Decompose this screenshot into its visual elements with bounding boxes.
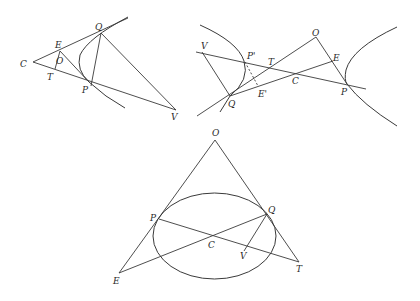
diameter-PT xyxy=(159,219,299,262)
tangent-CQ xyxy=(33,18,128,62)
label-P: P xyxy=(149,213,157,223)
tangent-OP xyxy=(316,37,347,84)
label-P-prime: P' xyxy=(246,51,256,61)
label-C: C xyxy=(20,59,27,69)
line-QP-diameter xyxy=(91,33,101,86)
label-T: T xyxy=(296,264,303,274)
line-EO-P xyxy=(60,51,89,82)
label-O: O xyxy=(212,128,220,138)
chord-QP-extended xyxy=(101,33,176,110)
line-QV xyxy=(244,214,267,251)
label-E-prime: E' xyxy=(257,89,267,99)
label-E: E xyxy=(332,53,340,63)
diameter-QE xyxy=(119,214,267,273)
label-Q: Q xyxy=(95,22,103,32)
geometry-figures: C E O T Q P V V P' T O E C Q E' P O P xyxy=(0,0,420,301)
label-C: C xyxy=(292,76,299,86)
tangent-OT xyxy=(215,140,299,262)
figure-1: C E O T Q P V xyxy=(20,17,179,122)
label-V: V xyxy=(171,112,179,122)
label-T: T xyxy=(268,57,275,67)
label-Q: Q xyxy=(268,205,276,215)
label-Q: Q xyxy=(228,99,236,109)
label-O: O xyxy=(56,56,64,66)
label-T: T xyxy=(47,72,54,82)
tangent-OE xyxy=(119,140,215,273)
figure-2: V P' T O E C Q E' P xyxy=(196,25,397,126)
label-P: P xyxy=(340,87,348,97)
label-P: P xyxy=(81,85,89,95)
label-O: O xyxy=(312,28,320,38)
figure-3: O P Q C V E T xyxy=(112,128,303,286)
hyperbola-right-branch xyxy=(345,27,397,126)
label-C: C xyxy=(208,240,215,250)
label-E: E xyxy=(112,276,120,286)
label-V: V xyxy=(201,41,209,51)
label-E: E xyxy=(54,40,62,50)
label-V: V xyxy=(240,251,248,261)
tangent-CP xyxy=(33,62,176,110)
